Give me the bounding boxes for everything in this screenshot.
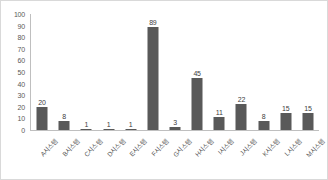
bar-value-label: 11 — [216, 109, 223, 116]
x-axis-label-slot: K시스템 — [253, 132, 275, 180]
y-axis-tick: 10 — [18, 115, 25, 122]
x-axis-label-slot: E시스템 — [120, 132, 142, 180]
y-axis-tick: 70 — [18, 45, 25, 52]
bar-slot: 8 — [53, 14, 75, 130]
bar — [214, 117, 225, 130]
bar — [59, 121, 70, 130]
bar-slot: 1 — [75, 14, 97, 130]
bar — [37, 107, 48, 130]
bar — [280, 113, 291, 130]
bar-slot: 1 — [97, 14, 119, 130]
bar-value-label: 45 — [193, 70, 200, 77]
bar-slot: 22 — [230, 14, 252, 130]
bar-slot: 45 — [186, 14, 208, 130]
y-axis-tick: 0 — [21, 127, 25, 134]
x-axis-label-slot: M시스템 — [297, 132, 319, 180]
x-axis-label-slot: J시스템 — [230, 132, 252, 180]
bar — [236, 104, 247, 130]
bar — [192, 78, 203, 130]
bar-value-label: 89 — [149, 19, 156, 26]
bar-value-label: 3 — [173, 119, 177, 126]
bar-value-label: 1 — [129, 121, 133, 128]
y-axis-tick: 30 — [18, 92, 25, 99]
bar — [81, 129, 92, 130]
y-axis-tick: 20 — [18, 103, 25, 110]
bar-slot: 8 — [253, 14, 275, 130]
bar-value-label: 8 — [62, 113, 66, 120]
x-axis-label-slot: F시스템 — [142, 132, 164, 180]
x-axis-category-labels: A시스템B시스템C시스템D시스템E시스템F시스템G시스템H시스템I시스템J시스템… — [31, 132, 319, 180]
x-axis-label: M시스템 — [303, 136, 326, 159]
bar-slot: 20 — [31, 14, 53, 130]
bar-slot: 1 — [120, 14, 142, 130]
bar — [147, 27, 158, 130]
bar-chart-figure: 1009080706050403020100 20811189345112281… — [0, 0, 328, 180]
bar — [103, 129, 114, 130]
x-axis-label-slot: I시스템 — [208, 132, 230, 180]
x-axis-label-slot: L시스템 — [275, 132, 297, 180]
x-axis-label-slot: H시스템 — [186, 132, 208, 180]
y-axis-tick-labels: 1009080706050403020100 — [1, 14, 28, 130]
bar — [169, 127, 180, 130]
y-axis-tick: 50 — [18, 69, 25, 76]
bar-slot: 11 — [208, 14, 230, 130]
x-axis-line — [30, 130, 319, 131]
y-axis-tick: 40 — [18, 80, 25, 87]
bar-value-label: 22 — [238, 96, 245, 103]
x-axis-label-slot: D시스템 — [97, 132, 119, 180]
y-axis-tick: 60 — [18, 57, 25, 64]
bar-value-label: 8 — [262, 113, 266, 120]
bar — [258, 121, 269, 130]
x-axis-label-slot: A시스템 — [31, 132, 53, 180]
bar — [125, 129, 136, 130]
bar-slot: 15 — [297, 14, 319, 130]
bar-slot: 3 — [164, 14, 186, 130]
bar — [302, 113, 313, 130]
bar-value-label: 1 — [85, 121, 89, 128]
x-axis-label-slot: C시스템 — [75, 132, 97, 180]
y-axis-tick: 100 — [14, 11, 25, 18]
y-axis-tick: 80 — [18, 34, 25, 41]
bar-slot: 15 — [275, 14, 297, 130]
bar-value-label: 15 — [304, 105, 311, 112]
y-axis-tick: 90 — [18, 22, 25, 29]
bar-value-label: 20 — [38, 99, 45, 106]
x-axis-label-slot: G시스템 — [164, 132, 186, 180]
x-axis-label-slot: B시스템 — [53, 132, 75, 180]
bar-value-label: 1 — [107, 121, 111, 128]
bar-slot: 89 — [142, 14, 164, 130]
bar-value-label: 15 — [282, 105, 289, 112]
bar-series: 20811189345112281515 — [31, 14, 319, 130]
